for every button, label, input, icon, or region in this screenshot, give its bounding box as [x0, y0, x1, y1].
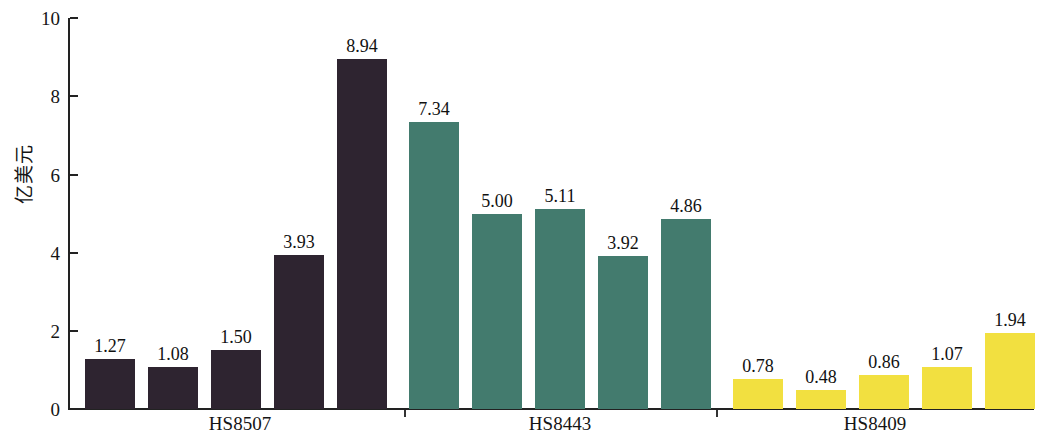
bar-hs8507-5 [337, 59, 387, 409]
y-tick-2: 2 [26, 322, 60, 341]
bar-hs8443-5 [661, 219, 711, 409]
x-category-label-hs8443: HS8443 [480, 414, 640, 434]
value-label-hs8443-4: 3.92 [598, 234, 648, 252]
bar-hs8507-1 [85, 359, 135, 409]
value-label-hs8409-5: 1.94 [985, 311, 1035, 329]
y-tickmark-0 [70, 408, 78, 410]
y-tick-10: 10 [26, 9, 60, 28]
value-label-hs8409-4: 1.07 [922, 345, 972, 363]
x-group-separator-1 [404, 410, 406, 417]
x-category-label-hs8507: HS8507 [160, 414, 320, 434]
value-label-hs8443-5: 4.86 [661, 197, 711, 215]
y-tick-0: 0 [26, 400, 60, 419]
y-tickmark-4 [70, 252, 78, 254]
x-category-label-hs8409: HS8409 [795, 414, 955, 434]
value-label-hs8409-2: 0.48 [796, 368, 846, 386]
bar-hs8409-2 [796, 390, 846, 409]
value-label-hs8443-1: 7.34 [409, 100, 459, 118]
y-tickmark-6 [70, 174, 78, 176]
value-label-hs8409-3: 0.86 [859, 353, 909, 371]
bar-hs8507-2 [148, 367, 198, 409]
value-label-hs8443-3: 5.11 [535, 187, 585, 205]
bar-hs8443-1 [409, 122, 459, 409]
value-label-hs8507-2: 1.08 [148, 345, 198, 363]
value-label-hs8507-4: 3.93 [274, 233, 324, 251]
bar-chart: 亿美元 10 8 6 4 2 0 1.27 1.08 1.50 3.93 8.9… [0, 0, 1038, 437]
y-tick-4: 4 [26, 244, 60, 263]
bar-hs8409-1 [733, 379, 783, 409]
bar-hs8507-3 [211, 350, 261, 409]
y-tick-6: 6 [26, 166, 60, 185]
x-group-separator-2 [716, 410, 718, 417]
value-label-hs8507-1: 1.27 [85, 337, 135, 355]
y-tickmark-8 [70, 95, 78, 97]
bar-hs8409-3 [859, 375, 909, 409]
y-tickmark-2 [70, 330, 78, 332]
value-label-hs8409-1: 0.78 [733, 357, 783, 375]
bar-hs8443-2 [472, 214, 522, 410]
value-label-hs8507-5: 8.94 [337, 37, 387, 55]
y-tickmark-10 [70, 17, 78, 19]
bar-hs8409-4 [922, 367, 972, 409]
bar-hs8443-4 [598, 256, 648, 409]
value-label-hs8507-3: 1.50 [211, 328, 261, 346]
bar-hs8409-5 [985, 333, 1035, 409]
y-axis-tick-labels: 10 8 6 4 2 0 [16, 0, 60, 437]
value-label-hs8443-2: 5.00 [472, 192, 522, 210]
y-tick-8: 8 [26, 87, 60, 106]
bar-hs8443-3 [535, 209, 585, 409]
y-axis-line [68, 18, 70, 410]
bar-hs8507-4 [274, 255, 324, 409]
